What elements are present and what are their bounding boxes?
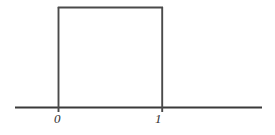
x-tick-label-0: 0 bbox=[54, 112, 61, 125]
figure-container: 0 1 bbox=[0, 0, 275, 135]
plot-canvas bbox=[0, 0, 275, 135]
x-tick-label-1: 1 bbox=[155, 112, 162, 125]
